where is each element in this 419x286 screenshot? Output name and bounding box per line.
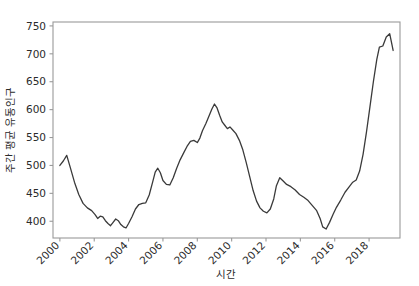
y-tick-label: 500 xyxy=(26,159,46,171)
y-tick-label: 600 xyxy=(26,103,46,115)
y-tick-label: 650 xyxy=(26,75,46,87)
chart-figure: 400450500550600650700750 200020022004200… xyxy=(0,0,419,286)
y-tick-label: 750 xyxy=(26,20,46,32)
y-axis-label: 주간 평균 유동인구 xyxy=(4,87,16,174)
y-tick-label: 700 xyxy=(26,48,46,60)
plot-area-background xyxy=(53,22,400,238)
y-tick-label: 550 xyxy=(26,131,46,143)
x-axis-label: 시간 xyxy=(216,268,236,280)
y-tick-label: 450 xyxy=(26,187,46,199)
line-chart: 400450500550600650700750 200020022004200… xyxy=(0,0,419,286)
y-tick-label: 400 xyxy=(26,215,46,227)
